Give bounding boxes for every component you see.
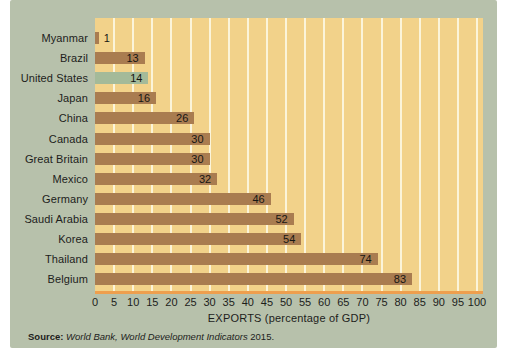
chart-card: Myanmar1Brazil13United States14Japan16Ch…: [10, 0, 497, 348]
value-label: 30: [95, 133, 204, 145]
x-tick-label: 5: [111, 296, 117, 308]
category-label: Korea: [10, 233, 88, 245]
x-axis-ticks: 0510152025303540455055606570758085909510…: [10, 296, 497, 308]
x-tick-label: 100: [468, 296, 486, 308]
value-label: 54: [95, 233, 295, 245]
bar-row: Mexico32: [10, 169, 497, 189]
x-tick-label: 10: [127, 296, 139, 308]
x-tick-label: 80: [394, 296, 406, 308]
bar-row: Canada30: [10, 128, 497, 148]
bar-row: United States14: [10, 68, 497, 88]
bar-row: Saudi Arabia52: [10, 209, 497, 229]
bar: [95, 32, 99, 44]
bar-track: 83: [95, 273, 497, 285]
value-label: 30: [95, 153, 204, 165]
x-tick-label: 20: [165, 296, 177, 308]
bar-row: Belgium83: [10, 269, 497, 289]
bar-row: China26: [10, 108, 497, 128]
bar-track: 30: [95, 153, 497, 165]
value-label: 14: [95, 72, 142, 84]
category-label: Mexico: [10, 173, 88, 185]
bar-track: 26: [95, 112, 497, 124]
bar-track: 46: [95, 193, 497, 205]
bar-track: 16: [95, 92, 497, 104]
bar-track: 14: [95, 72, 497, 84]
source-citation: World Bank, World Development Indicators: [66, 331, 248, 342]
value-label: 46: [95, 193, 265, 205]
bar-row: Germany46: [10, 189, 497, 209]
x-tick-label: 30: [203, 296, 215, 308]
value-label: 83: [95, 273, 406, 285]
category-label: United States: [10, 72, 88, 84]
x-tick-label: 35: [223, 296, 235, 308]
source-label: Source:: [28, 331, 63, 342]
source-note: Source: World Bank, World Development In…: [28, 331, 274, 342]
category-label: Great Britain: [10, 153, 88, 165]
x-tick-label: 85: [414, 296, 426, 308]
x-tick-label: 55: [299, 296, 311, 308]
value-label: 74: [95, 253, 372, 265]
value-label: 16: [95, 92, 150, 104]
value-label: 1: [104, 32, 110, 44]
x-tick-label: 95: [452, 296, 464, 308]
x-axis-title: EXPORTS (percentage of GDP): [95, 312, 483, 324]
source-year: 2015.: [250, 331, 274, 342]
category-label: Germany: [10, 193, 88, 205]
bar-row: Japan16: [10, 88, 497, 108]
bar-track: 1: [95, 32, 497, 44]
category-label: Belgium: [10, 273, 88, 285]
x-tick-label: 50: [280, 296, 292, 308]
bar-track: 52: [95, 213, 497, 225]
bar-track: 13: [95, 52, 497, 64]
x-tick-label: 90: [433, 296, 445, 308]
bar-row: Thailand74: [10, 249, 497, 269]
x-tick-label: 0: [92, 296, 98, 308]
x-tick-label: 70: [356, 296, 368, 308]
bar-track: 32: [95, 173, 497, 185]
x-tick-label: 15: [146, 296, 158, 308]
bar-row: Brazil13: [10, 48, 497, 68]
x-tick-label: 45: [261, 296, 273, 308]
value-label: 32: [95, 173, 211, 185]
bar-track: 30: [95, 133, 497, 145]
category-label: Japan: [10, 92, 88, 104]
category-label: China: [10, 112, 88, 124]
category-label: Myanmar: [10, 32, 88, 44]
x-tick-label: 60: [318, 296, 330, 308]
bar-row: Great Britain30: [10, 149, 497, 169]
bar-row: Korea54: [10, 229, 497, 249]
value-label: 26: [95, 112, 188, 124]
x-tick-label: 75: [375, 296, 387, 308]
bar-track: 54: [95, 233, 497, 245]
x-tick-label: 65: [337, 296, 349, 308]
x-tick-label: 25: [184, 296, 196, 308]
category-label: Brazil: [10, 52, 88, 64]
category-label: Saudi Arabia: [10, 213, 88, 225]
value-label: 52: [95, 213, 288, 225]
x-tick-label: 40: [242, 296, 254, 308]
value-label: 13: [95, 52, 139, 64]
category-label: Canada: [10, 133, 88, 145]
category-label: Thailand: [10, 253, 88, 265]
bar-row: Myanmar1: [10, 28, 497, 48]
bar-track: 74: [95, 253, 497, 265]
bar-rows: Myanmar1Brazil13United States14Japan16Ch…: [10, 28, 497, 289]
